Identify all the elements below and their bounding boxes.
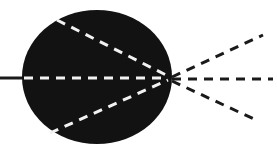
outer-ray-0 <box>172 35 263 77</box>
outer-dashed-rays <box>172 35 273 120</box>
outer-ray-2 <box>172 81 256 120</box>
ray-diagram <box>0 0 277 146</box>
